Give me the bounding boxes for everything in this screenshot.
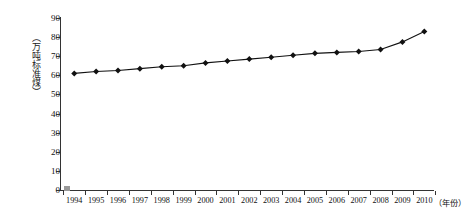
y-tick-mark bbox=[56, 75, 60, 76]
x-tick-label: 2001 bbox=[219, 196, 235, 205]
y-tick-mark bbox=[56, 18, 60, 19]
data-point-marker bbox=[421, 28, 427, 34]
x-tick-label: 2006 bbox=[329, 196, 345, 205]
x-tick-mark bbox=[260, 191, 261, 195]
data-point-marker bbox=[71, 70, 77, 76]
data-point-marker bbox=[290, 52, 296, 58]
x-tick-label: 1999 bbox=[175, 196, 191, 205]
x-axis-label: （年份） bbox=[434, 196, 466, 208]
data-point-marker bbox=[246, 56, 252, 62]
x-tick-label: 1997 bbox=[132, 196, 148, 205]
x-tick-mark bbox=[173, 191, 174, 195]
y-tick-mark bbox=[56, 152, 60, 153]
x-tick-label: 2009 bbox=[394, 196, 410, 205]
data-point-marker bbox=[203, 60, 209, 66]
x-tick-label: 2003 bbox=[263, 196, 279, 205]
data-point-marker bbox=[93, 69, 99, 75]
data-point-marker bbox=[356, 48, 362, 54]
x-tick-label: 1994 bbox=[66, 196, 82, 205]
x-tick-mark bbox=[348, 191, 349, 195]
x-tick-mark bbox=[85, 191, 86, 195]
x-tick-mark bbox=[304, 191, 305, 195]
x-tick-label: 2000 bbox=[197, 196, 213, 205]
x-tick-mark bbox=[216, 191, 217, 195]
x-tick-mark bbox=[151, 191, 152, 195]
x-tick-label: 2007 bbox=[351, 196, 367, 205]
x-tick-mark bbox=[435, 191, 436, 195]
x-tick-mark bbox=[392, 191, 393, 195]
x-tick-label: 2005 bbox=[307, 196, 323, 205]
x-tick-label: 1996 bbox=[110, 196, 126, 205]
x-tick-mark bbox=[413, 191, 414, 195]
x-tick-label: 2008 bbox=[372, 196, 388, 205]
y-tick-mark bbox=[56, 94, 60, 95]
x-tick-label: 1995 bbox=[88, 196, 104, 205]
data-point-marker bbox=[268, 54, 274, 60]
y-tick-mark bbox=[56, 37, 60, 38]
y-tick-mark bbox=[56, 56, 60, 57]
x-tick-label: 2010 bbox=[416, 196, 432, 205]
data-point-marker bbox=[137, 66, 143, 72]
data-point-marker bbox=[224, 58, 230, 64]
y-tick-mark bbox=[56, 133, 60, 134]
x-tick-label: 2002 bbox=[241, 196, 257, 205]
x-tick-mark bbox=[107, 191, 108, 195]
x-tick-mark bbox=[238, 191, 239, 195]
x-tick-label: 1998 bbox=[154, 196, 170, 205]
x-tick-mark bbox=[282, 191, 283, 195]
data-point-marker bbox=[378, 47, 384, 53]
x-tick-mark bbox=[63, 191, 64, 195]
y-tick-mark bbox=[56, 190, 60, 191]
data-point-marker bbox=[181, 63, 187, 69]
x-tick-label: 2004 bbox=[285, 196, 301, 205]
data-point-marker bbox=[159, 64, 165, 70]
x-tick-mark bbox=[326, 191, 327, 195]
data-point-marker bbox=[334, 49, 340, 55]
data-point-marker bbox=[399, 39, 405, 45]
x-tick-mark bbox=[370, 191, 371, 195]
x-tick-mark bbox=[129, 191, 130, 195]
y-tick-mark bbox=[56, 171, 60, 172]
data-point-marker bbox=[312, 50, 318, 56]
series-line bbox=[74, 31, 424, 73]
data-point-marker bbox=[115, 68, 121, 74]
x-tick-mark bbox=[195, 191, 196, 195]
y-tick-mark bbox=[56, 114, 60, 115]
